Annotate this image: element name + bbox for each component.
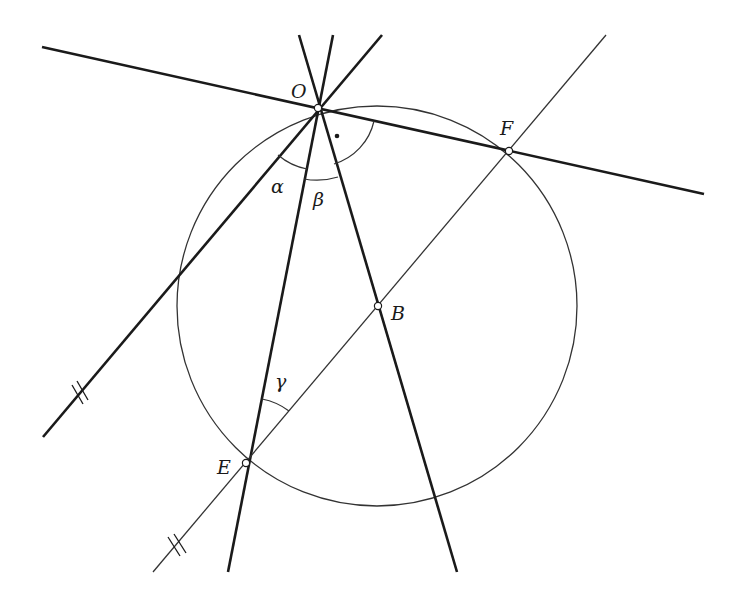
parallel-mark-2 xyxy=(168,534,186,556)
angle-arc-gamma xyxy=(262,399,289,411)
line-OE xyxy=(228,35,333,572)
point-O xyxy=(314,104,321,111)
label-O: O xyxy=(291,80,307,102)
point-E xyxy=(242,459,249,466)
point-F xyxy=(505,147,512,154)
angle-arc-alpha xyxy=(278,155,307,169)
point-B xyxy=(374,302,381,309)
label-alpha: α xyxy=(271,175,284,197)
label-gamma: γ xyxy=(275,370,287,392)
line-alpha xyxy=(43,35,382,437)
label-E: E xyxy=(216,456,231,478)
geometry-diagram: O F B E α β γ xyxy=(0,0,737,604)
right-angle-dot xyxy=(335,134,340,139)
angle-arc-right xyxy=(334,121,374,164)
label-B: B xyxy=(390,302,405,324)
label-F: F xyxy=(499,117,514,139)
angle-arc-beta xyxy=(304,177,338,180)
tangent-line-OF xyxy=(42,47,704,194)
label-beta: β xyxy=(312,188,324,210)
